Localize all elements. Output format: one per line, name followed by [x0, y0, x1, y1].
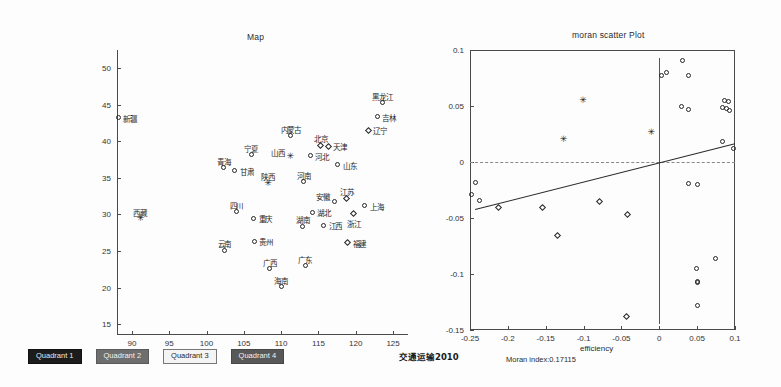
legend-quadrant-3[interactable]: Quadrant 3 — [163, 349, 217, 364]
map-point-label: 北京 — [314, 133, 328, 144]
y-tick — [117, 288, 121, 289]
y-tick-label: -0.15 — [446, 326, 464, 335]
x-tick — [735, 326, 736, 330]
x-tick — [281, 331, 282, 335]
marker-circle — [310, 210, 315, 215]
y-tick — [117, 324, 121, 325]
map-point-label: 青海 — [217, 156, 231, 167]
marker-circle — [713, 256, 718, 261]
y-tick — [117, 105, 121, 106]
x-tick-label: -0.15 — [537, 334, 555, 343]
x-tick-label: -0.2 — [501, 334, 515, 343]
y-tick-label: 0 — [460, 158, 464, 167]
map-point-label: 云南 — [218, 238, 232, 249]
y-tick-label: -0.05 — [446, 214, 464, 223]
x-tick — [132, 331, 133, 335]
y-tick-label: -0.1 — [450, 270, 464, 279]
dataset-year-label: 交通运输2010 — [399, 350, 459, 362]
map-point-label: 广西 — [263, 257, 277, 268]
x-tick — [244, 331, 245, 335]
legend-quadrant-1[interactable]: Quadrant 1 — [28, 349, 82, 364]
y-tick-label: 25 — [102, 246, 111, 255]
marker-star: ✳ — [287, 153, 294, 160]
x-tick-label: -0.25 — [461, 334, 479, 343]
map-point-label: 贵州 — [259, 236, 273, 247]
y-tick — [117, 141, 121, 142]
marker-star: ✳ — [647, 129, 654, 136]
x-tick-label: 100 — [200, 339, 213, 348]
x-tick-label: 95 — [165, 339, 174, 348]
marker-circle — [686, 107, 691, 112]
y-tick-label: 0.1 — [453, 46, 464, 55]
quadrant-legend: Quadrant 1Quadrant 2Quadrant 3Quadrant 4 — [28, 349, 284, 364]
y-tick-label: 15 — [102, 320, 111, 329]
map-point-label: 上海 — [370, 201, 384, 212]
map-point-label: 辽宁 — [373, 125, 387, 136]
map-point-label: 湖南 — [296, 214, 310, 225]
y-tick-label: 20 — [102, 283, 111, 292]
map-plot-frame — [117, 50, 408, 335]
y-tick — [470, 218, 474, 219]
x-tick — [508, 326, 509, 330]
x-tick — [659, 326, 660, 330]
x-tick-label: 0.1 — [729, 334, 740, 343]
moran-index-label: Moran index:0.17115 — [506, 355, 576, 364]
moran-plot-frame — [470, 50, 735, 330]
map-point-label: 天津 — [333, 141, 347, 152]
map-point-label: 四川 — [230, 200, 244, 211]
map-point-label: 广东 — [298, 254, 312, 265]
map-point-label: 安徽 — [316, 191, 330, 202]
y-tick — [117, 214, 121, 215]
map-point-label: 湖北 — [317, 207, 331, 218]
marker-circle — [694, 266, 699, 271]
zero-line-vertical — [659, 58, 660, 324]
legend-quadrant-2[interactable]: Quadrant 2 — [96, 349, 150, 364]
marker-circle — [686, 181, 691, 186]
map-point-label: 黑龙江 — [372, 91, 392, 102]
marker-circle — [252, 239, 257, 244]
marker-circle — [695, 303, 700, 308]
x-tick-label: 115 — [312, 339, 325, 348]
marker-circle — [731, 146, 736, 151]
map-point-label: 宁夏 — [244, 143, 258, 154]
map-point-label: 吉林 — [382, 112, 396, 123]
map-point-label: 重庆 — [259, 213, 273, 224]
map-point-label: 内蒙古 — [281, 124, 301, 135]
y-tick-label: 30 — [102, 210, 111, 219]
y-tick — [117, 178, 121, 179]
map-point-label: 浙江 — [347, 218, 361, 229]
map-point-label: 山东 — [343, 160, 357, 171]
x-tick — [318, 331, 319, 335]
x-tick-label: 120 — [349, 339, 362, 348]
zero-line-horizontal — [470, 162, 735, 163]
map-point-label: 海南 — [274, 275, 288, 286]
x-tick-label: 90 — [127, 339, 136, 348]
map-point-label: 陕西 — [261, 171, 275, 182]
moran-chart-panel: moran scatter Plot -0.25-0.2-0.15-0.1-0.… — [430, 0, 781, 345]
x-tick-label: 0.05 — [689, 334, 705, 343]
x-tick — [621, 326, 622, 330]
x-tick-label: 105 — [237, 339, 250, 348]
legend-quadrant-4[interactable]: Quadrant 4 — [231, 349, 285, 364]
x-tick — [697, 326, 698, 330]
x-tick-label: -0.1 — [577, 334, 591, 343]
x-tick-label: -0.05 — [612, 334, 630, 343]
y-tick-label: 35 — [102, 173, 111, 182]
marker-circle — [477, 198, 482, 203]
y-tick — [470, 274, 474, 275]
y-tick — [117, 251, 121, 252]
y-tick — [117, 68, 121, 69]
marker-circle — [251, 216, 256, 221]
map-point-label: 甘肃 — [240, 166, 254, 177]
y-tick — [470, 50, 474, 51]
marker-star: ✳ — [560, 136, 567, 143]
moran-x-axis-label: efficiency — [580, 344, 613, 353]
map-point-label: 江西 — [329, 220, 343, 231]
marker-circle — [680, 58, 685, 63]
y-tick — [470, 330, 474, 331]
x-tick — [207, 331, 208, 335]
figure-canvas: Map 909510010511011512012515202530354045… — [0, 0, 781, 387]
x-tick — [546, 326, 547, 330]
map-point-label: 西藏 — [133, 207, 147, 218]
y-tick-label: 40 — [102, 137, 111, 146]
